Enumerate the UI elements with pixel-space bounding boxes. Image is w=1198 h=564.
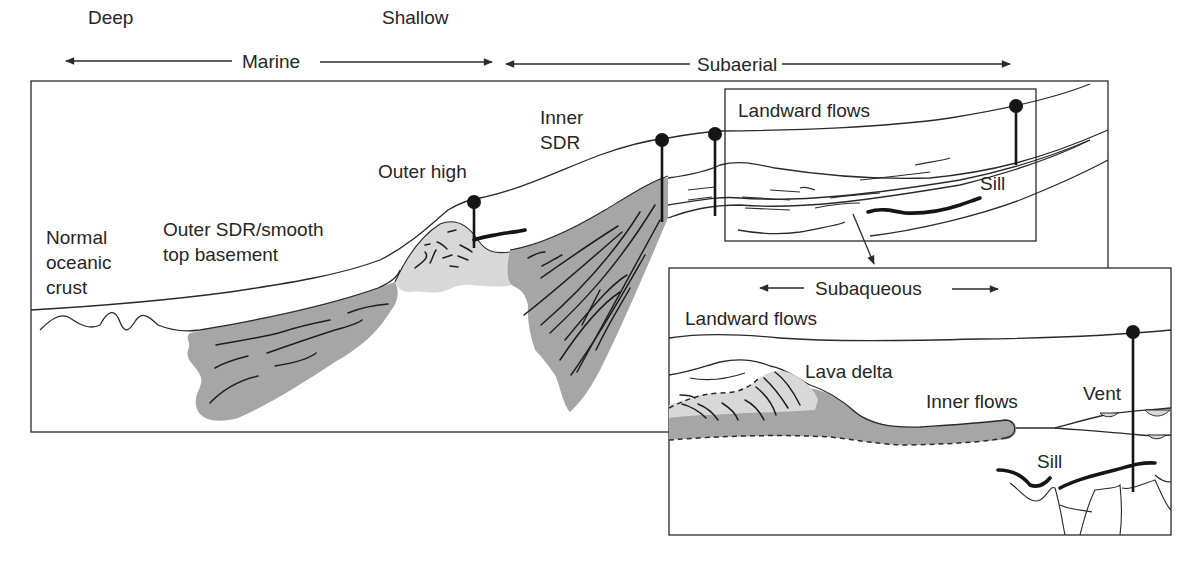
deep-label: Deep [88, 7, 133, 28]
marine-label: Marine [242, 51, 300, 72]
inset-panel: Subaqueous Landward flows [669, 268, 1171, 535]
vent-label: Vent [1083, 383, 1122, 404]
inset-sill-label: Sill [1037, 451, 1062, 472]
inner-flows-label: Inner flows [926, 391, 1018, 412]
sill-label: Sill [980, 173, 1005, 194]
landward-flows-label: Landward flows [738, 100, 870, 121]
subaqueous-label: Subaqueous [815, 278, 922, 299]
shallow-label: Shallow [382, 7, 449, 28]
environment-axis: Deep Shallow Marine Subaerial [66, 7, 1010, 75]
volcanic-margin-diagram: Deep Shallow Marine Subaerial [0, 0, 1198, 564]
outer-high-label: Outer high [378, 161, 467, 182]
inset-landward-flows-label: Landward flows [685, 308, 817, 329]
lava-delta-label: Lava delta [805, 361, 893, 382]
subaerial-label: Subaerial [697, 54, 777, 75]
